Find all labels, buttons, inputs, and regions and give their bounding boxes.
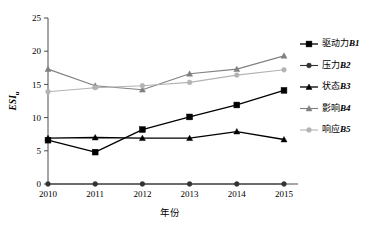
data-point-marker [307, 63, 312, 68]
data-point-marker [234, 182, 239, 187]
y-tick-label: 15 [32, 80, 42, 90]
legend-item-b1[interactable]: 驱动力B1 [300, 37, 360, 48]
series-2 [46, 182, 287, 187]
series-4 [45, 53, 287, 92]
x-axis-title: 年份 [160, 207, 180, 218]
y-axis-ticks: 0510152025 [32, 13, 48, 189]
data-point-marker [46, 89, 51, 94]
data-point-marker [307, 128, 312, 133]
series-line [48, 70, 284, 92]
data-point-marker [281, 87, 287, 93]
data-point-marker [187, 114, 193, 120]
y-tick-label: 25 [32, 13, 42, 23]
y-tick-label: 10 [32, 113, 42, 123]
data-point-marker [93, 85, 98, 90]
x-tick-label: 2014 [228, 189, 247, 199]
data-point-marker [46, 182, 51, 187]
series-3 [45, 129, 287, 142]
data-point-marker [281, 53, 287, 58]
data-point-marker [92, 149, 98, 155]
data-point-marker [234, 73, 239, 78]
x-tick-label: 2010 [39, 189, 58, 199]
data-point-marker [140, 127, 146, 133]
data-point-marker [140, 83, 145, 88]
legend-label: 响应B5 [322, 123, 351, 134]
chart-container: 0510152025 201020112012201320142015 驱动力B… [0, 0, 381, 225]
legend-item-b4[interactable]: 影响B4 [300, 102, 351, 113]
data-point-marker [282, 182, 287, 187]
x-tick-label: 2015 [275, 189, 294, 199]
series-line [48, 56, 284, 90]
legend-item-b3[interactable]: 状态B3 [300, 80, 351, 91]
legend-label: 影响B4 [322, 102, 351, 113]
series-line [48, 132, 284, 140]
data-point-marker [187, 80, 192, 85]
data-point-marker [140, 182, 145, 187]
y-axis-title: ESIu [8, 91, 20, 111]
data-point-marker [187, 182, 192, 187]
data-point-marker [282, 67, 287, 72]
legend-item-b2[interactable]: 压力B2 [300, 59, 351, 70]
legend-label: 压力B2 [322, 59, 351, 70]
x-tick-label: 2012 [133, 189, 151, 199]
data-point-marker [234, 102, 240, 108]
y-tick-label: 0 [37, 179, 42, 189]
series-1 [45, 87, 287, 155]
y-axis-title-text: ESIu [8, 91, 20, 111]
y-tick-label: 20 [32, 46, 42, 56]
data-point-marker [45, 66, 51, 71]
series-line [48, 90, 284, 152]
series-layer [45, 53, 287, 187]
x-tick-label: 2013 [181, 189, 200, 199]
legend-item-b5[interactable]: 响应B5 [300, 123, 351, 134]
chart-legend: 驱动力B1压力B2状态B3影响B4响应B5 [300, 37, 360, 134]
x-tick-label: 2011 [86, 189, 104, 199]
x-axis-ticks: 201020112012201320142015 [39, 189, 294, 199]
legend-label: 驱动力B1 [322, 37, 360, 48]
data-point-marker [93, 182, 98, 187]
legend-label: 状态B3 [322, 80, 351, 91]
data-point-marker [306, 41, 312, 47]
y-tick-label: 5 [37, 146, 42, 156]
line-chart: 0510152025 201020112012201320142015 驱动力B… [0, 0, 381, 225]
